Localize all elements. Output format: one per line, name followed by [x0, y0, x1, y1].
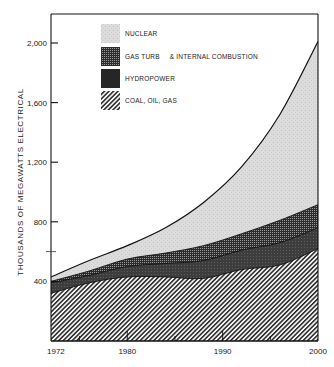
legend-label-gas: GAS TURB & INTERNAL COMBUSTION: [125, 53, 258, 60]
legend-swatch-hydro: [101, 69, 120, 88]
y-tick-label: 1,200: [27, 158, 48, 167]
y-axis-label: THOUSANDS OF MEGAWATTS ELECTRICAL: [16, 88, 25, 276]
legend-swatch-nuclear: [101, 24, 120, 43]
y-axis-ticks: 4008001,2001,6002,000: [27, 39, 58, 286]
legend-swatch-gas: [101, 47, 120, 66]
stacked-areas: [51, 42, 318, 341]
y-tick-label: 800: [34, 218, 48, 227]
legend-swatch-coal: [101, 91, 120, 110]
y-tick-label: 1,600: [27, 99, 48, 108]
y-tick-label: 400: [34, 277, 48, 286]
x-tick-label: 1980: [118, 347, 136, 356]
legend-label-coal: COAL, OIL, GAS: [125, 97, 177, 104]
x-tick-label: 1972: [47, 347, 65, 356]
legend-label-nuclear: NUCLEAR: [125, 30, 158, 37]
legend: NUCLEAR GAS TURB & INTERNAL COMBUSTION H…: [101, 24, 258, 110]
y-tick-label: 2,000: [27, 39, 48, 48]
x-tick-label: 2000: [309, 347, 327, 356]
legend-label-hydro: HYDROPOWER: [125, 75, 175, 82]
energy-capacity-chart: 4008001,2001,6002,000 1972198019902000 T…: [0, 0, 334, 367]
x-tick-label: 1990: [214, 347, 232, 356]
